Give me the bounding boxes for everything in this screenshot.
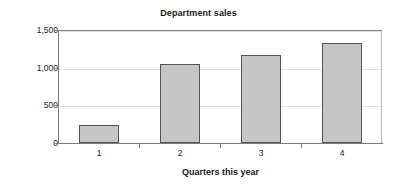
y-tick-label: 1,500 bbox=[14, 25, 58, 35]
y-axis-ticks: 05001,0001,500 bbox=[6, 0, 58, 190]
bars-layer bbox=[58, 30, 382, 143]
bar-chart: Department sales Sales in thousands 0500… bbox=[0, 0, 397, 190]
x-tick-label: 3 bbox=[241, 148, 281, 158]
bar bbox=[160, 64, 200, 143]
x-tick-mark bbox=[139, 143, 140, 148]
x-axis-title: Quarters this year bbox=[58, 167, 383, 177]
x-tick-label: 2 bbox=[160, 148, 200, 158]
x-tick-mark bbox=[220, 143, 221, 148]
y-tick-label: 0 bbox=[14, 138, 58, 148]
x-tick-mark bbox=[301, 143, 302, 148]
bar bbox=[322, 43, 362, 143]
bar bbox=[79, 125, 119, 143]
chart-title: Department sales bbox=[0, 8, 397, 18]
y-tick-label: 500 bbox=[14, 100, 58, 110]
x-tick-label: 4 bbox=[322, 148, 362, 158]
bar bbox=[241, 55, 281, 143]
y-tick-label: 1,000 bbox=[14, 63, 58, 73]
x-tick-label: 1 bbox=[79, 148, 119, 158]
